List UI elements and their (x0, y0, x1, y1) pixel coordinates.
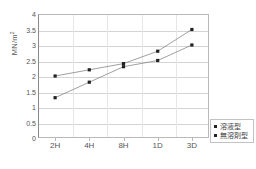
data-point-marker (156, 59, 159, 62)
y-axis-tick-label: 0 (2, 135, 36, 142)
data-point-marker (88, 68, 91, 71)
series-line (55, 45, 192, 98)
legend-item-label: 無溶剤型 (220, 131, 248, 140)
y-axis-tick-label: 0.5 (2, 119, 36, 126)
y-axis-tick-label: 4 (2, 11, 36, 18)
data-point-marker (190, 43, 193, 46)
x-axis-tick-label: 3D (172, 141, 212, 150)
data-point-marker (54, 74, 57, 77)
y-axis-tick-label: 2 (2, 73, 36, 80)
legend-item[interactable]: 溶液型 (214, 122, 251, 131)
legend-marker-icon (214, 125, 217, 128)
data-point-marker (122, 65, 125, 68)
legend-item-label: 溶液型 (220, 122, 241, 131)
y-axis-tick-label: 3 (2, 42, 36, 49)
legend-item[interactable]: 無溶剤型 (214, 131, 251, 140)
y-axis-tick-label: 1 (2, 104, 36, 111)
series-line (55, 30, 192, 77)
x-axis-tick-mark (124, 138, 125, 141)
y-axis-tick-label: 2.5 (2, 57, 36, 64)
legend-marker-icon (214, 134, 217, 137)
x-axis-tick-labels: 2H4H8H1D3D (38, 141, 209, 157)
data-point-marker (156, 50, 159, 53)
x-axis-tick-mark (158, 138, 159, 141)
data-point-marker (54, 96, 57, 99)
x-axis-tick-mark (55, 138, 56, 141)
x-axis-tick-mark (192, 138, 193, 141)
data-point-marker (190, 28, 193, 31)
series-layer (38, 14, 209, 138)
data-point-marker (88, 81, 91, 84)
y-axis-tick-labels: 00.511.522.533.54 (0, 14, 36, 138)
y-axis-tick-label: 1.5 (2, 88, 36, 95)
x-axis-tick-mark (89, 138, 90, 141)
y-axis-tick-label: 3.5 (2, 26, 36, 33)
chart-container: MN/m2 00.511.522.533.54 2H4H8H1D3D 溶液型 無… (0, 0, 256, 169)
chart-legend: 溶液型 無溶剤型 (210, 119, 254, 143)
data-point-marker (122, 62, 125, 65)
